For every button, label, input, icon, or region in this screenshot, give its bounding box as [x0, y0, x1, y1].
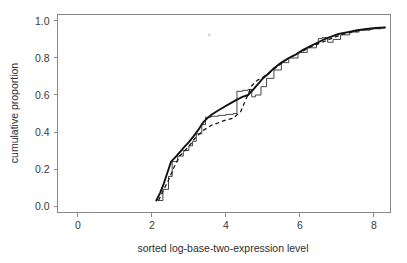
data-series-thin-step-ecdf	[157, 27, 385, 200]
series-group	[156, 27, 385, 200]
x-tick-label: 8	[371, 219, 377, 231]
data-series-dashed-ecdf	[159, 27, 385, 200]
x-tick-label: 2	[149, 219, 155, 231]
x-tick-labels: 02468	[75, 219, 377, 231]
y-tick-label: 0.6	[35, 89, 50, 101]
y-tick-label: 1.0	[35, 15, 50, 27]
x-axis-title: sorted log-base-two-expression level	[138, 242, 309, 254]
y-tick-label: 0.4	[35, 126, 50, 138]
x-tick-label: 4	[223, 219, 229, 231]
y-tick-label: 0.2	[35, 163, 50, 175]
y-tick-labels: 0.00.20.40.60.81.0	[35, 15, 50, 212]
x-tick-marks	[78, 213, 374, 217]
x-tick-label: 0	[75, 219, 81, 231]
annotation-group	[208, 33, 211, 36]
data-series-solid-thick-ecdf	[156, 27, 385, 200]
chart-figure: 02468 0.00.20.40.60.81.0 sorted log-base…	[0, 0, 407, 263]
faint-speck-marker	[208, 33, 211, 36]
plot-frame	[58, 15, 391, 213]
y-tick-label: 0.0	[35, 200, 50, 212]
x-tick-label: 6	[297, 219, 303, 231]
chart-canvas: 02468 0.00.20.40.60.81.0 sorted log-base…	[0, 0, 407, 263]
y-tick-label: 0.8	[35, 52, 50, 64]
y-tick-marks	[54, 21, 58, 206]
y-axis-title: cumulative proportion	[8, 63, 20, 164]
